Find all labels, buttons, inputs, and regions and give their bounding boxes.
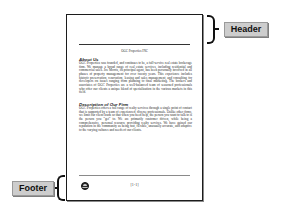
page-content: About Us OGC Properties was founded, and… [79, 57, 192, 140]
footer-bracket-icon [57, 175, 65, 201]
section-about-us: About Us OGC Properties was founded, and… [79, 57, 192, 95]
page-footer: [1-1] [79, 175, 190, 197]
company-logo-icon [81, 182, 89, 190]
section-body: OGC Properties was founded, and continue… [79, 62, 192, 95]
header-callout-label: Header [224, 22, 268, 37]
footer-callout-label: Footer [12, 181, 54, 196]
document-page: OGC Properties INC About Us OGC Properti… [66, 14, 203, 201]
section-description-of-firm: Description of Our Firm OGC Properties o… [79, 102, 192, 133]
header-title: OGC Properties INC [121, 49, 148, 53]
page-number: [1-1] [131, 182, 139, 187]
document-layout-diagram: OGC Properties INC About Us OGC Properti… [0, 0, 284, 210]
section-body: OGC Properties offers a full range of re… [79, 107, 192, 133]
page-header: OGC Properties INC [79, 39, 190, 45]
header-bracket-tip [214, 28, 219, 30]
